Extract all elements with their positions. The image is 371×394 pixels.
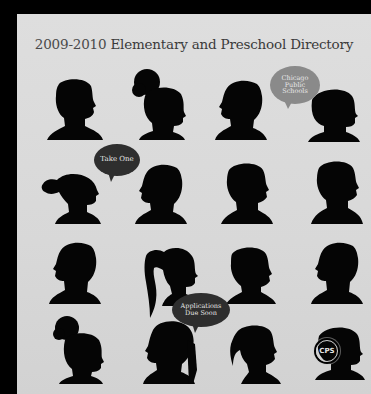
silhouette-child-icon: [213, 80, 269, 140]
silhouette-boy-3-icon: [47, 242, 103, 304]
silhouette-girl-afro-puff-icon: [127, 68, 189, 140]
bubble-chicago-public-schools: Chicago Public Schools: [270, 66, 320, 110]
bubble-line: Due Soon: [185, 310, 217, 317]
silhouette-girl-ponytail-2-icon: [225, 324, 285, 384]
silhouette-girl-afro-puff-2-icon: [45, 314, 107, 384]
silhouette-boy-2-icon: [307, 160, 365, 224]
bubble-line: Take One: [100, 156, 133, 163]
silhouette-boy-5-icon: [309, 242, 365, 304]
silhouette-boy-icon: [45, 78, 107, 140]
bubble-take-one: Take One: [94, 144, 140, 184]
silhouette-child-3-icon: [217, 162, 275, 224]
silhouette-child-2-icon: [133, 164, 189, 224]
bubble-applications-due-soon: Applications Due Soon: [172, 293, 230, 337]
cps-logo: CPS: [316, 340, 338, 362]
silhouette-boy-4-icon: [222, 246, 278, 304]
directory-cover: 2009-2010 Elementary and Preschool Direc…: [17, 14, 371, 394]
bubble-line: Schools: [282, 88, 308, 95]
